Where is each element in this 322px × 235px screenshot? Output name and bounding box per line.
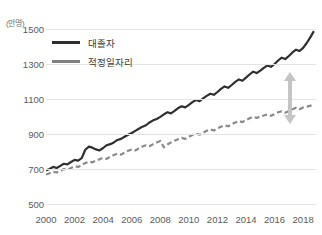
legend: 대졸자적정일자리: [52, 33, 133, 71]
x-axis-tick-label: 2016: [264, 214, 285, 225]
x-axis-tick-label: 2014: [235, 214, 256, 225]
legend-item[interactable]: 대졸자: [52, 33, 133, 52]
legend-label: 대졸자: [88, 36, 115, 50]
x-axis-tick-label: 2008: [150, 214, 171, 225]
legend-item[interactable]: 적정일자리: [52, 52, 133, 71]
x-axis-tick-label: 2000: [35, 214, 56, 225]
x-axis-tick-label: 2012: [207, 214, 228, 225]
x-axis-tick-label: 2002: [64, 214, 85, 225]
x-axis-tick-label: 2010: [178, 214, 199, 225]
x-axis-tick-label: 2006: [121, 214, 142, 225]
gap-arrow-icon: [283, 72, 297, 124]
chart-container: (만명) 150013001100900700500 2000200220042…: [0, 0, 322, 235]
x-axis-tick-label: 2018: [293, 214, 314, 225]
legend-swatch-icon: [52, 41, 80, 44]
x-axis: 2000200220042006200820102012201420162018: [0, 0, 322, 235]
legend-label: 적정일자리: [88, 55, 133, 69]
legend-swatch-icon: [52, 60, 80, 63]
x-axis-tick-label: 2004: [93, 214, 114, 225]
